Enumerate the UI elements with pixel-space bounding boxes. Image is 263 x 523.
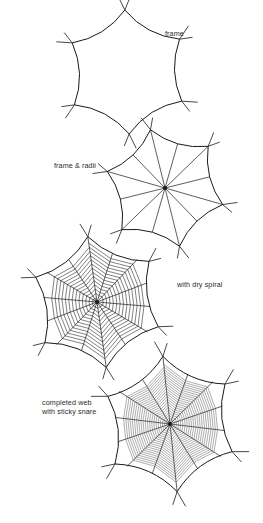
caption-frame-and-radii: frame & radii (54, 162, 96, 171)
caption-completed-web-line2: with sticky snare (42, 407, 96, 416)
diagram-background (0, 0, 263, 523)
spider-web-construction-diagram (0, 0, 263, 523)
anchor-line (158, 326, 173, 327)
anchor-line (21, 277, 36, 278)
panel-frame-radii-hub (163, 186, 167, 190)
caption-frame: frame (165, 30, 184, 39)
caption-with-dry-spiral: with dry spiral (177, 281, 222, 290)
panel-dry-spiral-hub (95, 300, 99, 304)
panel-completed-web-hub (168, 422, 172, 426)
caption-completed-web: completed webwith sticky snare (42, 399, 96, 416)
